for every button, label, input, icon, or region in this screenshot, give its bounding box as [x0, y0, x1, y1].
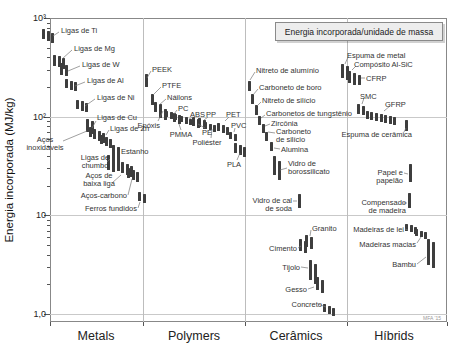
material-bar — [405, 224, 408, 231]
material-bar — [251, 94, 254, 103]
material-bar — [248, 81, 251, 92]
x-tick — [245, 322, 246, 326]
material-label: PP — [206, 111, 216, 119]
material-bar — [143, 194, 146, 204]
material-label: Aços-carbono — [81, 192, 127, 200]
material-label: Espuma de metal — [347, 52, 405, 60]
material-label: Compensadode madeira — [361, 199, 406, 215]
material-label: Ligas dechumbo — [81, 154, 109, 170]
material-bar — [341, 64, 344, 78]
material-label: CFRP — [366, 75, 386, 83]
y-minor-tick — [47, 245, 50, 246]
material-bar — [362, 106, 365, 116]
material-bar — [427, 239, 430, 265]
y-minor-tick — [47, 70, 50, 71]
material-bar — [298, 194, 301, 208]
material-bar — [357, 104, 360, 114]
material-bar — [151, 94, 154, 105]
material-bar — [408, 193, 411, 208]
material-bar — [165, 111, 168, 118]
material-bar — [121, 162, 124, 173]
material-bar — [332, 308, 335, 316]
material-label: Madeiras de lei — [353, 226, 404, 234]
material-bar — [198, 118, 201, 127]
category-divider — [143, 18, 144, 322]
material-bar — [180, 116, 183, 123]
material-label: Tijolo — [282, 264, 300, 272]
y-minor-tick — [47, 220, 50, 221]
material-label: GFRP — [385, 101, 406, 109]
y-minor-tick — [47, 121, 50, 122]
material-label: Vidro de calde soda — [253, 197, 292, 213]
material-bar — [353, 73, 356, 85]
material-label: Bambu — [392, 261, 416, 269]
material-label: Granito — [312, 225, 337, 233]
material-bar — [270, 142, 273, 151]
material-bar — [323, 304, 326, 312]
material-bar — [304, 241, 307, 253]
material-bar — [145, 74, 148, 87]
material-label: Ligas de Cu — [97, 114, 137, 122]
material-label: Estanho — [121, 148, 149, 156]
y-tick-label: 1,0 — [12, 309, 46, 319]
material-bar — [70, 81, 73, 90]
y-minor-tick — [47, 267, 50, 268]
category-label-polymers: Polymers — [168, 329, 220, 343]
material-bar — [375, 113, 378, 121]
material-bar — [217, 123, 220, 131]
material-label: PE — [202, 129, 212, 137]
material-bar — [222, 125, 225, 133]
material-bar — [258, 116, 261, 125]
material-bar — [380, 114, 383, 122]
material-bar — [229, 132, 232, 139]
material-bar — [415, 229, 418, 235]
material-bar — [105, 137, 108, 147]
material-label: Carbonetode silício — [276, 128, 311, 144]
material-bar — [138, 192, 141, 202]
material-label: Ligas de Al — [87, 77, 124, 85]
y-minor-tick — [47, 23, 50, 24]
material-bar — [384, 115, 387, 123]
material-bar — [243, 147, 246, 157]
y-minor-tick — [47, 126, 50, 127]
material-bar — [234, 143, 237, 153]
material-label: Papel epapelão — [376, 169, 403, 185]
material-bar — [278, 161, 281, 181]
material-label: Gesso — [285, 286, 307, 294]
material-label: PEEK — [152, 66, 172, 74]
y-minor-tick — [47, 28, 50, 29]
material-label: Carboneto de boro — [259, 84, 322, 92]
y-minor-tick — [47, 87, 50, 88]
material-bar — [273, 156, 276, 176]
material-bar — [100, 135, 103, 145]
material-label: SMC — [360, 93, 377, 101]
material-label: Ligas de W — [82, 61, 120, 69]
material-bar — [74, 82, 77, 91]
material-label: PET — [226, 111, 241, 119]
category-divider — [347, 18, 348, 322]
category-label-hbrids: Híbrids — [374, 329, 414, 343]
y-minor-tick — [47, 284, 50, 285]
material-label: Espuma de cerâmica — [342, 131, 412, 139]
material-bar — [424, 232, 427, 238]
material-bar — [389, 116, 392, 124]
material-bar — [239, 145, 242, 155]
material-label: Nitreto de silício — [262, 97, 315, 105]
material-bar — [170, 112, 173, 119]
category-label-metals: Metals — [78, 329, 115, 343]
material-bar — [370, 112, 373, 120]
material-label: Aços debaixa liga — [83, 172, 115, 188]
material-label: PC — [178, 105, 188, 113]
material-label: Ligas de Mg — [74, 45, 115, 53]
y-minor-tick — [47, 156, 50, 157]
material-bar — [132, 170, 135, 179]
material-label: Ligas de Ni — [97, 94, 135, 102]
material-label: Açosinoxidáveis — [26, 136, 63, 152]
material-bar — [348, 71, 351, 83]
material-bar — [173, 113, 176, 122]
material-bar — [85, 103, 88, 112]
material-bar — [409, 164, 412, 181]
material-bar — [89, 127, 92, 137]
material-bar — [112, 157, 115, 172]
gridline — [50, 314, 447, 315]
